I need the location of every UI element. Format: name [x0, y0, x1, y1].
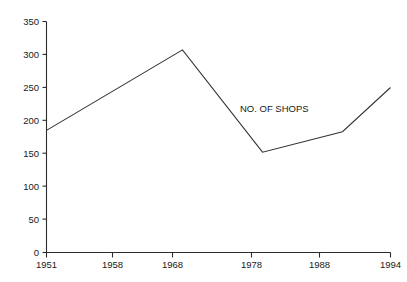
y-tick-label: 200: [23, 115, 39, 126]
x-tick-label: 1978: [241, 259, 262, 270]
x-tick-label: 1951: [36, 259, 57, 270]
x-tick-label: 1968: [162, 259, 183, 270]
x-axis-ticks: [47, 253, 391, 258]
x-tick-label: 1988: [309, 259, 330, 270]
x-tick-label: 1958: [102, 259, 123, 270]
line-chart-canvas: 350 300 250 200 150 100 50 0 1951 1958 1…: [0, 0, 407, 282]
y-tick-label: 300: [23, 49, 39, 60]
series-annotation-label: NO. OF SHOPS: [240, 103, 309, 114]
y-axis-ticks: [43, 22, 47, 253]
y-tick-label: 100: [23, 181, 39, 192]
y-tick-label: 350: [23, 16, 39, 27]
y-tick-label: 150: [23, 148, 39, 159]
x-axis-tick-labels: 1951 1958 1968 1978 1988 1994: [36, 259, 401, 270]
chart-figure: 350 300 250 200 150 100 50 0 1951 1958 1…: [0, 0, 407, 282]
y-tick-label: 50: [28, 214, 39, 225]
y-tick-label: 250: [23, 82, 39, 93]
y-tick-label: 0: [34, 247, 39, 258]
y-axis-tick-labels: 350 300 250 200 150 100 50 0: [23, 16, 39, 258]
data-series-no-of-shops: [47, 50, 391, 152]
x-tick-label: 1994: [380, 259, 401, 270]
